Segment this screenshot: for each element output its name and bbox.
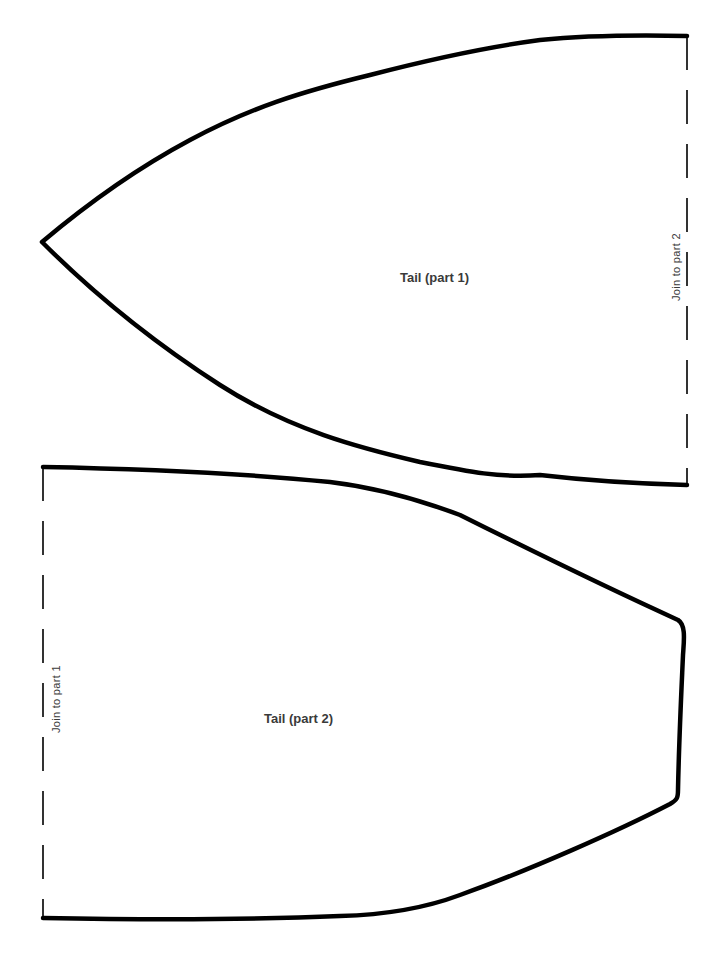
tail-part1-outline — [42, 36, 687, 485]
pattern-outlines — [0, 0, 727, 972]
tail-part2-label: Tail (part 2) — [264, 711, 333, 726]
tail-part2-join-label: Join to part 1 — [50, 665, 62, 733]
pattern-page: Tail (part 1) Join to part 2 Tail (part … — [0, 0, 727, 972]
tail-part2-outline — [43, 467, 684, 919]
tail-part1-join-label: Join to part 2 — [670, 233, 682, 301]
tail-part1-label: Tail (part 1) — [400, 270, 469, 285]
